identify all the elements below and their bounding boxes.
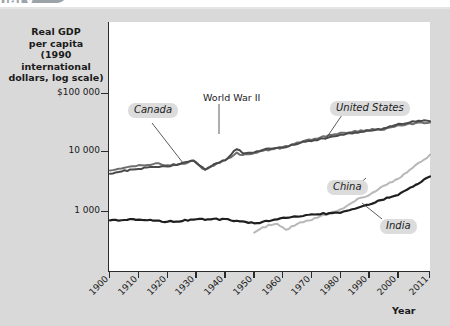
y-tick-label-0: $100 000 <box>8 87 100 97</box>
x-tick-mark-2000 <box>397 272 398 278</box>
x-tick-mark-1950 <box>253 272 254 278</box>
figure: nary Real GDP per capita (1990 internati… <box>0 0 450 326</box>
x-tick-mark-1900 <box>109 272 110 278</box>
x-tick-mark-1920 <box>167 272 168 278</box>
united-states-label: United States <box>330 101 410 116</box>
x-tick-mark-1930 <box>195 272 196 278</box>
world-war-ii-label: World War II <box>203 92 260 103</box>
x-tick-mark-1910 <box>138 272 139 278</box>
china-label: China <box>327 180 368 195</box>
figure-bottom-padding <box>0 316 450 326</box>
x-axis-title: Year <box>392 305 416 316</box>
x-tick-mark-1990 <box>368 272 369 278</box>
india-label: India <box>380 219 417 234</box>
plot-area <box>108 22 430 272</box>
y-axis-tick-labels: $100 00010 0001 000 <box>8 0 100 326</box>
series-line-united-states <box>110 120 430 173</box>
canada-label: Canada <box>128 103 178 118</box>
x-tick-mark-1960 <box>282 272 283 278</box>
x-tick-mark-1980 <box>340 272 341 278</box>
y-tick-label-2: 1 000 <box>8 205 100 215</box>
series-line-india <box>110 177 430 224</box>
x-tick-mark-1940 <box>224 272 225 278</box>
y-tick-label-1: 10 000 <box>8 145 100 155</box>
x-tick-mark-1970 <box>311 272 312 278</box>
chart-lines <box>109 22 431 272</box>
x-tick-mark-2011 <box>429 272 430 278</box>
